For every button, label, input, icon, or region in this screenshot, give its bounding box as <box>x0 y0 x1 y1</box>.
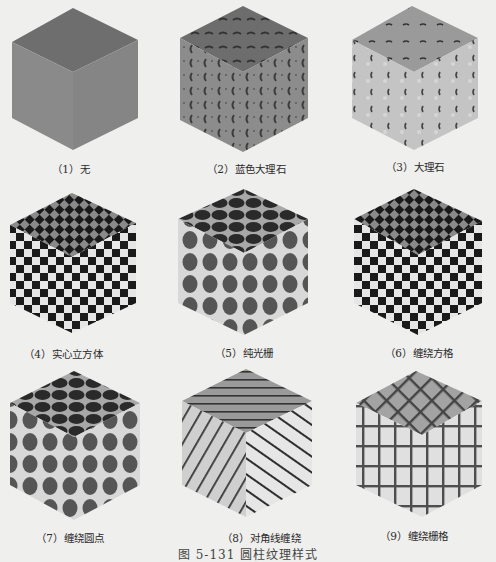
marble-cube-icon <box>330 0 496 160</box>
label-none: （1）无 <box>52 161 90 176</box>
label-marble: （3）大理石 <box>386 159 444 174</box>
grid-cube-icon <box>330 365 496 525</box>
label-diagonal-wrap: （8）对角线缠绕 <box>222 530 301 545</box>
dots-cube-icon <box>160 185 330 340</box>
cube-diagonal-wrap <box>160 365 325 545</box>
cube-blue-marble <box>160 0 325 180</box>
cube-wrapped-grid <box>330 365 495 545</box>
wrapped-dots-cube-icon <box>0 365 165 525</box>
blue-marble-cube-icon <box>160 0 330 160</box>
label-plain-raster: （5）纯光栅 <box>215 345 273 360</box>
label-blue-marble: （2）蓝色大理石 <box>207 161 286 176</box>
wrapped-checker-cube-icon <box>330 185 496 340</box>
label-wrapped-checker: （6）缠绕方格 <box>385 345 454 360</box>
label-wrapped-dots: （7）缠绕圆点 <box>36 530 105 545</box>
cube-none <box>0 0 165 180</box>
checker-cube-icon <box>0 185 165 340</box>
cube-solid-checker <box>0 185 165 365</box>
plain-cube-icon <box>0 0 165 160</box>
cube-marble <box>330 0 495 180</box>
figure-caption: 图 5-131 圆柱纹理样式 <box>0 545 496 562</box>
cube-plain-raster <box>160 185 325 365</box>
cube-wrapped-dots <box>0 365 165 545</box>
label-solid-cube: （4）实心立方体 <box>24 346 103 361</box>
label-wrapped-grid: （9）缠绕栅格 <box>380 528 449 543</box>
cube-wrapped-checker <box>330 185 495 365</box>
diagonal-cube-icon <box>160 365 330 525</box>
